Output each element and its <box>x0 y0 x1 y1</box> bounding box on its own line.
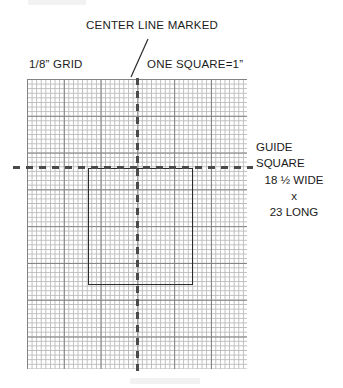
guide-square-callout: GUIDE SQUARE 18 ½ WIDE x 23 LONG <box>248 139 340 221</box>
callout-line-width: 18 ½ WIDE <box>248 172 340 188</box>
scan-artifact-bottom <box>130 378 200 384</box>
center-line-annotation: CENTER LINE MARKED <box>86 19 218 33</box>
leader-line-icon <box>128 38 150 78</box>
callout-line-by: x <box>248 188 340 204</box>
guide-square-outline <box>88 168 193 285</box>
callout-line-guide: GUIDE <box>248 139 340 155</box>
one-square-scale-annotation: ONE SQUARE=1” <box>147 58 243 72</box>
callout-line-length: 23 LONG <box>248 204 340 220</box>
diagram-canvas: CENTER LINE MARKED 1/8” GRID ONE SQUARE=… <box>0 0 343 388</box>
scan-artifact-top <box>28 0 86 5</box>
grid-scale-annotation: 1/8” GRID <box>29 58 83 72</box>
vertical-center-line <box>136 78 139 372</box>
callout-line-square: SQUARE <box>248 155 340 171</box>
horizontal-center-line <box>13 166 253 169</box>
